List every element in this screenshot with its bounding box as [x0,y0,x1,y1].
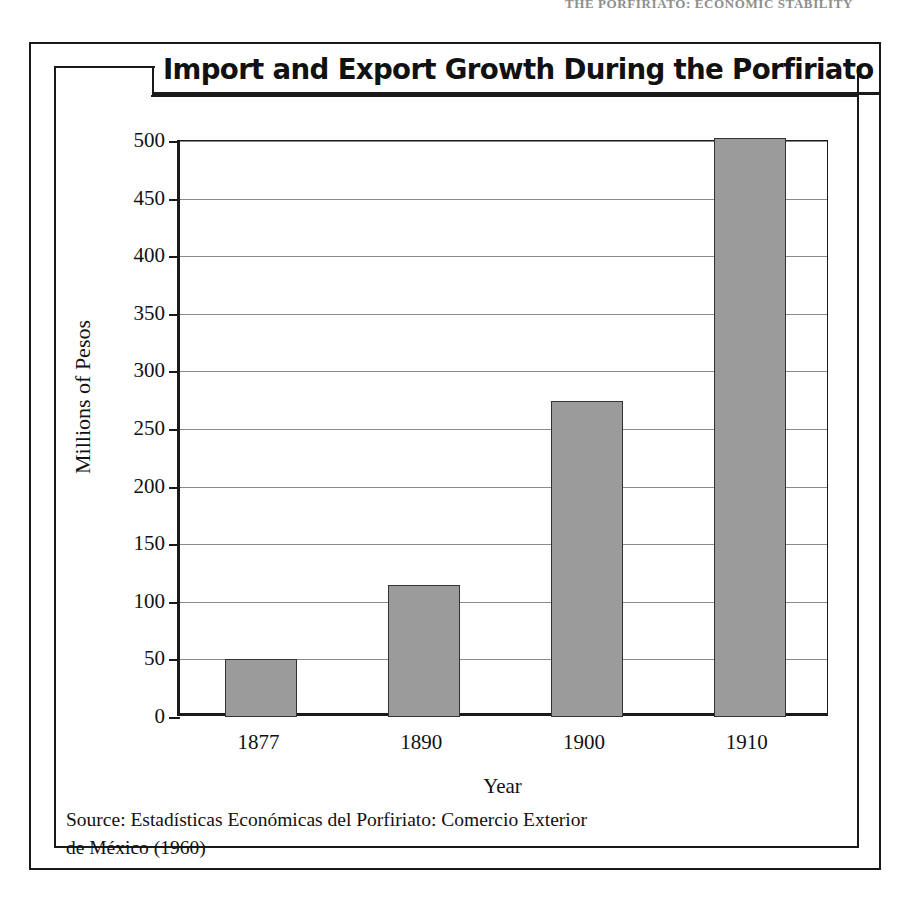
x-axis-tick-label: 1877 [177,730,340,755]
y-axis-tick-label: 300 [134,360,166,381]
x-axis-tick-label: 1890 [340,730,503,755]
y-axis-tick-label: 50 [144,648,165,669]
y-axis-tick [169,371,180,373]
y-axis-tick-label: 250 [134,418,166,439]
bar [551,401,623,717]
y-axis-tick-label: 500 [134,130,166,151]
y-axis-tick-label: 100 [134,591,166,612]
source-note: Source: Estadísticas Económicas del Porf… [66,806,766,861]
y-axis-tick [169,314,180,316]
y-axis-tick [169,602,180,604]
y-axis-title: Millions of Pesos [70,267,96,527]
x-axis-tick-label: 1910 [665,730,828,755]
y-axis-tick-labels: 050100150200250300350400450500 [129,140,165,716]
y-axis-tick-label: 0 [155,706,166,727]
y-axis-tick [169,141,180,143]
bar [714,138,786,717]
y-axis-tick [169,256,180,258]
y-axis-tick-label: 350 [134,303,166,324]
x-axis-title: Year [177,774,828,799]
bar [388,585,460,717]
y-axis-tick-label: 200 [134,476,166,497]
y-axis-tick [169,429,180,431]
plot-inner [180,141,827,713]
y-axis-tick [169,717,180,719]
page-running-head: THE PORFIRIATO: ECONOMIC STABILITY [0,0,911,12]
y-axis-tick [169,659,180,661]
source-note-line-2: de México (1960) [66,834,766,862]
source-note-line-1: Source: Estadísticas Económicas del Porf… [66,809,587,830]
bar-chart: Millions of Pesos 0501001502002503003504… [31,44,883,872]
y-axis-tick [169,487,180,489]
figure-outer-frame: Import and Export Growth During the Porf… [29,42,881,870]
y-axis-tick [169,199,180,201]
y-axis-tick [169,544,180,546]
plot-area [177,140,828,716]
x-axis-tick-labels: 1877189019001910 [177,730,828,760]
y-axis-tick-label: 150 [134,533,166,554]
y-axis-tick-label: 450 [134,188,166,209]
x-axis-tick-label: 1900 [503,730,666,755]
bar [225,659,297,717]
y-axis-tick-label: 400 [134,245,166,266]
